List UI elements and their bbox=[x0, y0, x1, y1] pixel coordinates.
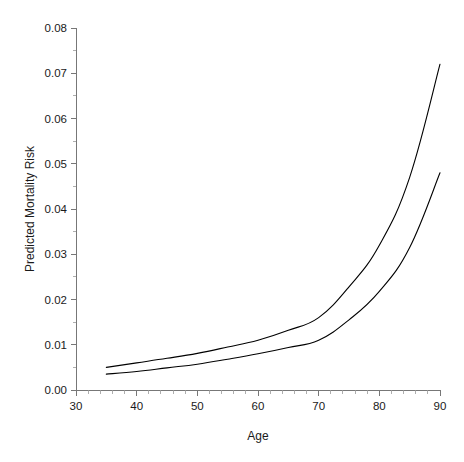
y-tick-label-3: 0.03 bbox=[45, 248, 67, 260]
y-tick-label-2: 0.02 bbox=[45, 294, 67, 306]
x-tick-label-0: 30 bbox=[70, 400, 83, 412]
y-tick-label-4: 0.04 bbox=[45, 203, 68, 215]
chart-figure: 0.000.010.020.030.040.050.060.070.08 304… bbox=[0, 0, 464, 462]
y-tick-label-6: 0.06 bbox=[45, 113, 67, 125]
x-tick-label-4: 70 bbox=[312, 400, 325, 412]
x-axis-title: Age bbox=[247, 429, 269, 443]
x-tick-label-6: 90 bbox=[434, 400, 447, 412]
y-tick-label-5: 0.05 bbox=[45, 158, 67, 170]
y-tick-label-0: 0.00 bbox=[45, 384, 67, 396]
y-tick-label-7: 0.07 bbox=[45, 67, 67, 79]
x-tick-label-5: 80 bbox=[373, 400, 386, 412]
x-tick-label-1: 40 bbox=[130, 400, 143, 412]
chart-background bbox=[0, 0, 464, 462]
x-tick-label-3: 60 bbox=[252, 400, 265, 412]
y-axis-title: Predicted Mortality Risk bbox=[23, 145, 37, 272]
y-axis-tick-labels: 0.000.010.020.030.040.050.060.070.08 bbox=[45, 22, 68, 396]
mortality-risk-line-chart: 0.000.010.020.030.040.050.060.070.08 304… bbox=[0, 0, 464, 462]
y-tick-label-1: 0.01 bbox=[45, 339, 67, 351]
y-tick-label-8: 0.08 bbox=[45, 22, 67, 34]
x-tick-label-2: 50 bbox=[191, 400, 204, 412]
